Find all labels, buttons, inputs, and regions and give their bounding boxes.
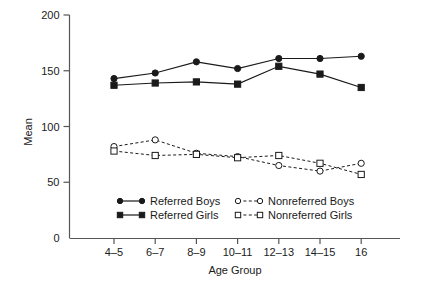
y-tick-label-100: 100 [41, 121, 59, 133]
line-chart: 050100150200 4–56–78–910–1112–1314–1516 … [0, 0, 421, 292]
x-tick-label-0: 4–5 [105, 246, 123, 258]
x-tick-label-4: 12–13 [264, 246, 295, 258]
data-point-marker [276, 63, 282, 69]
data-point-marker [117, 212, 122, 217]
x-tick-label-5: 14–15 [305, 246, 336, 258]
data-point-marker [139, 198, 144, 203]
data-point-marker [193, 59, 199, 65]
data-point-marker [276, 152, 282, 158]
data-point-marker [152, 152, 158, 158]
data-point-marker [358, 84, 364, 90]
data-point-marker [235, 198, 240, 203]
data-point-marker [193, 151, 199, 157]
data-point-marker [235, 81, 241, 87]
data-point-marker [317, 160, 323, 166]
data-point-marker [235, 155, 241, 161]
data-point-marker [276, 162, 282, 168]
data-point-marker [152, 80, 158, 86]
legend-label: Referred Boys [150, 195, 221, 207]
data-point-marker [358, 171, 364, 177]
data-point-marker [117, 198, 122, 203]
x-tick-label-6: 16 [355, 246, 367, 258]
data-point-marker [257, 212, 262, 217]
chart-figure: 050100150200 4–56–78–910–1112–1314–1516 … [0, 0, 421, 292]
legend-label: Referred Girls [150, 209, 219, 221]
legend-label: Nonreferred Boys [268, 195, 355, 207]
data-point-marker [152, 70, 158, 76]
data-point-marker [111, 82, 117, 88]
data-point-marker [235, 65, 241, 71]
y-tick-label-200: 200 [41, 9, 59, 21]
data-point-marker [139, 212, 144, 217]
data-point-marker [317, 71, 323, 77]
legend-label: Nonreferred Girls [268, 209, 353, 221]
x-tick-label-1: 6–7 [146, 246, 164, 258]
data-point-marker [152, 137, 158, 143]
data-point-marker [317, 168, 323, 174]
x-tick-label-2: 8–9 [187, 246, 205, 258]
x-tick-label-3: 10–11 [223, 246, 253, 258]
data-point-marker [358, 160, 364, 166]
data-point-marker [317, 55, 323, 61]
y-tick-label-50: 50 [47, 176, 59, 188]
data-point-marker [111, 148, 117, 154]
data-point-marker [235, 212, 240, 217]
y-tick-label-0: 0 [53, 232, 59, 244]
x-axis-title: Age Group [208, 264, 261, 276]
y-tick-label-150: 150 [41, 65, 59, 77]
y-axis-title: Mean [22, 118, 34, 146]
data-point-marker [276, 55, 282, 61]
data-point-marker [111, 75, 117, 81]
data-point-marker [193, 79, 199, 85]
data-point-marker [257, 198, 262, 203]
data-point-marker [358, 53, 364, 59]
